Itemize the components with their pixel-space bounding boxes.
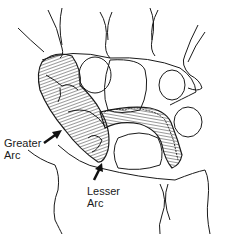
ulna-a xyxy=(159,184,164,234)
metacarpal-3a xyxy=(100,12,110,58)
pisiform xyxy=(174,107,202,137)
ulna-b xyxy=(165,184,170,220)
hamate xyxy=(159,70,185,100)
radius xyxy=(28,150,62,234)
lesser-arc-label: Lesser Arc xyxy=(87,185,120,209)
radius-articular xyxy=(58,145,210,234)
capitate xyxy=(104,60,146,113)
greater-arc-label: Greater Arc xyxy=(4,137,41,161)
lesser-arc-band xyxy=(100,107,182,168)
scaphoid xyxy=(38,54,109,162)
metacarpal-2a xyxy=(18,28,44,52)
lesser-arc-arrow xyxy=(94,163,103,180)
metacarpal-4a xyxy=(150,8,155,56)
metacarpal-5b xyxy=(188,32,205,62)
greater-arc-arrow xyxy=(44,130,62,143)
metacarpal-3b xyxy=(108,12,113,40)
lunate xyxy=(114,133,162,169)
